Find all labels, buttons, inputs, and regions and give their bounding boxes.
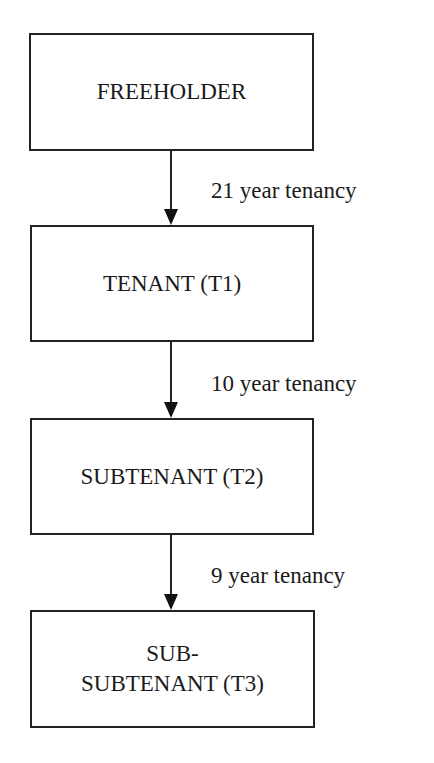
sub-subtenant-box: SUB- SUBTENANT (T3) [30,610,315,728]
subtenant-box: SUBTENANT (T2) [30,418,314,535]
arrowhead-down-icon [164,594,178,610]
subtenant-label: SUBTENANT (T2) [81,462,264,492]
edge-label-9-year: 9 year tenancy [211,563,345,589]
arrowhead-down-icon [164,402,178,418]
arrow-subtenant-to-sub-subtenant [170,535,172,596]
tenant-box: TENANT (T1) [30,225,314,342]
arrowhead-down-icon [164,209,178,225]
tenant-label: TENANT (T1) [103,269,241,299]
sub-subtenant-label-line2: SUBTENANT (T3) [81,669,264,699]
freeholder-box: FREEHOLDER [29,33,314,151]
arrow-tenant-to-subtenant [170,342,172,404]
freeholder-label: FREEHOLDER [97,77,247,107]
edge-label-10-year: 10 year tenancy [211,371,357,397]
edge-label-21-year: 21 year tenancy [211,178,357,204]
sub-subtenant-label-line1: SUB- [146,639,198,669]
arrow-freeholder-to-tenant [170,151,172,211]
